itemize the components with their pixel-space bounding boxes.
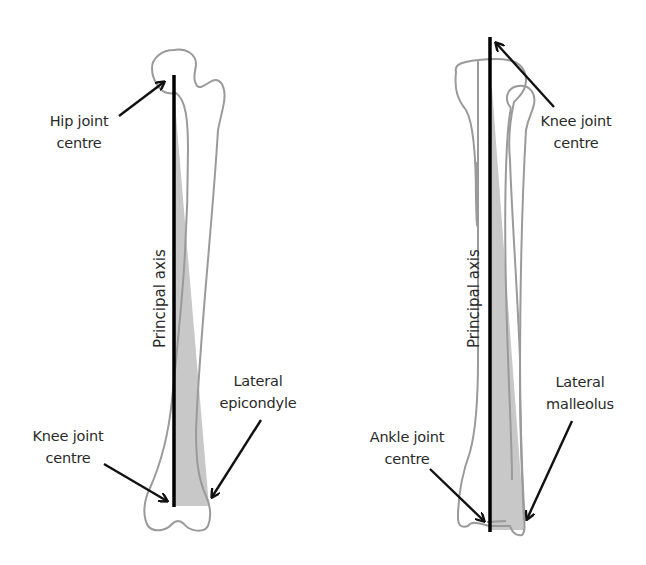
ankle-joint-centre-label-line1: Ankle joint <box>367 426 447 448</box>
lateral-epicondyle-label: Lateral epicondyle <box>218 370 298 414</box>
femur-panel <box>104 50 261 531</box>
lateral-malleolus-label: Lateral malleolus <box>545 371 615 415</box>
femur-knee-joint-centre-label-line1: Knee joint <box>30 425 106 447</box>
ankle-joint-centre-label-line2: centre <box>367 448 447 470</box>
hip-joint-centre-label-line2: centre <box>48 132 110 154</box>
tibia-knee-joint-centre-label-line1: Knee joint <box>538 110 614 132</box>
lateral-epicondyle-label-line1: Lateral <box>218 370 298 392</box>
lateral-epicondyle-label-line2: epicondyle <box>218 392 298 414</box>
femur-principal-axis-label: Principal axis <box>151 249 169 348</box>
hip-joint-centre-arrow <box>119 82 164 116</box>
lateral-malleolus-label-line2: malleolus <box>545 393 615 415</box>
lateral-malleolus-label-line1: Lateral <box>545 371 615 393</box>
lateral-epicondyle-arrow <box>212 420 261 497</box>
hip-joint-centre-label: Hip joint centre <box>48 110 110 154</box>
femur-knee-joint-centre-label-line2: centre <box>30 447 106 469</box>
ankle-joint-centre-label: Ankle joint centre <box>367 426 447 470</box>
hip-joint-centre-label-line1: Hip joint <box>48 110 110 132</box>
tibia-knee-joint-centre-arrow <box>496 43 554 107</box>
lateral-malleolus-arrow <box>527 421 572 519</box>
tibia-principal-axis-label: Principal axis <box>465 249 483 348</box>
ankle-joint-centre-arrow <box>430 469 484 521</box>
diagram-canvas <box>0 0 646 565</box>
femur-knee-joint-centre-label: Knee joint centre <box>30 425 106 469</box>
tibia-knee-joint-centre-label-line2: centre <box>538 132 614 154</box>
bone-axes-figure: Hip joint centre Principal axis Lateral … <box>0 0 646 565</box>
tibia-knee-joint-centre-label: Knee joint centre <box>538 110 614 154</box>
